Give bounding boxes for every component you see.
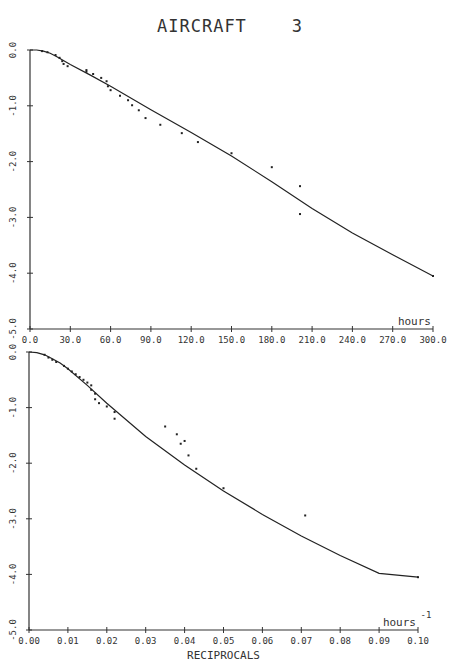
- x-tick-label: 30.0: [59, 335, 81, 345]
- x-tick-label: 210.0: [299, 335, 326, 345]
- data-point: [145, 117, 147, 119]
- data-point: [184, 440, 186, 442]
- data-point: [90, 384, 92, 386]
- fitted-curve: [30, 50, 433, 276]
- data-point: [299, 213, 301, 215]
- data-point: [299, 185, 301, 187]
- y-tick-label: -1.0: [8, 95, 18, 117]
- x-tick-label: 240.0: [339, 335, 366, 345]
- data-point: [127, 99, 129, 101]
- data-point: [110, 89, 112, 91]
- y-tick-label: 0.0: [8, 344, 18, 360]
- data-point: [94, 398, 96, 400]
- x-tick-label: 0.04: [174, 636, 196, 646]
- x-tick-label: 0.07: [290, 636, 312, 646]
- y-tick-label: -5.0: [8, 619, 18, 641]
- data-point: [98, 402, 100, 404]
- data-point: [271, 166, 273, 168]
- x-unit-exponent: -1: [421, 610, 432, 620]
- data-point: [106, 405, 108, 407]
- data-point: [181, 132, 183, 134]
- x-tick-label: 300.0: [419, 335, 446, 345]
- x-axis-title: RECIPROCALS: [187, 649, 260, 662]
- fitted-curve: [29, 352, 418, 577]
- x-tick-label: 0.05: [213, 636, 235, 646]
- y-tick-label: -1.0: [8, 397, 18, 419]
- data-point: [138, 109, 140, 111]
- y-tick-label: 0.0: [8, 42, 18, 58]
- x-tick-label: 120.0: [178, 335, 205, 345]
- data-point: [176, 433, 178, 435]
- x-tick-label: 0.06: [252, 636, 274, 646]
- y-tick-label: -4.0: [8, 262, 18, 284]
- x-tick-label: 0.03: [135, 636, 157, 646]
- x-unit-label: hours: [398, 315, 431, 328]
- data-point: [164, 426, 166, 428]
- data-point: [180, 443, 182, 445]
- x-tick-label: 0.08: [329, 636, 351, 646]
- x-tick-label: 180.0: [258, 335, 285, 345]
- x-tick-label: 90.0: [140, 335, 162, 345]
- x-tick-label: 0.09: [368, 636, 390, 646]
- data-point: [131, 104, 133, 106]
- x-tick-label: 150.0: [218, 335, 245, 345]
- data-point: [86, 382, 88, 384]
- plot-canvas: 0.030.060.090.0120.0150.0180.0210.0240.0…: [0, 0, 460, 671]
- data-point: [106, 80, 108, 82]
- data-point: [114, 418, 116, 420]
- data-point: [100, 77, 102, 79]
- data-point: [92, 73, 94, 75]
- x-tick-label: 0.02: [96, 636, 118, 646]
- reciprocals-panel: 0.000.010.020.030.040.050.060.070.080.09…: [8, 344, 431, 662]
- data-point: [187, 454, 189, 456]
- data-point: [231, 152, 233, 154]
- x-tick-label: 0.00: [18, 636, 40, 646]
- x-tick-label: 270.0: [379, 335, 406, 345]
- x-tick-label: 0.10: [407, 636, 429, 646]
- hours-panel: 0.030.060.090.0120.0150.0180.0210.0240.0…: [8, 42, 447, 345]
- x-tick-label: 0.01: [57, 636, 79, 646]
- y-tick-label: -2.0: [8, 452, 18, 474]
- y-tick-label: -3.0: [8, 508, 18, 530]
- x-tick-label: 60.0: [100, 335, 122, 345]
- data-point: [223, 487, 225, 489]
- y-tick-label: -5.0: [8, 318, 18, 340]
- data-point: [304, 514, 306, 516]
- data-point: [195, 468, 197, 470]
- data-point: [63, 63, 65, 65]
- y-tick-label: -2.0: [8, 151, 18, 173]
- data-point: [114, 411, 116, 413]
- data-point: [82, 379, 84, 381]
- data-point: [67, 65, 69, 67]
- x-unit-label: hours: [383, 616, 416, 629]
- y-tick-label: -4.0: [8, 564, 18, 586]
- x-tick-label: 0.0: [22, 335, 38, 345]
- data-point: [119, 95, 121, 97]
- data-point: [197, 141, 199, 143]
- y-tick-label: -3.0: [8, 207, 18, 229]
- data-point: [159, 124, 161, 126]
